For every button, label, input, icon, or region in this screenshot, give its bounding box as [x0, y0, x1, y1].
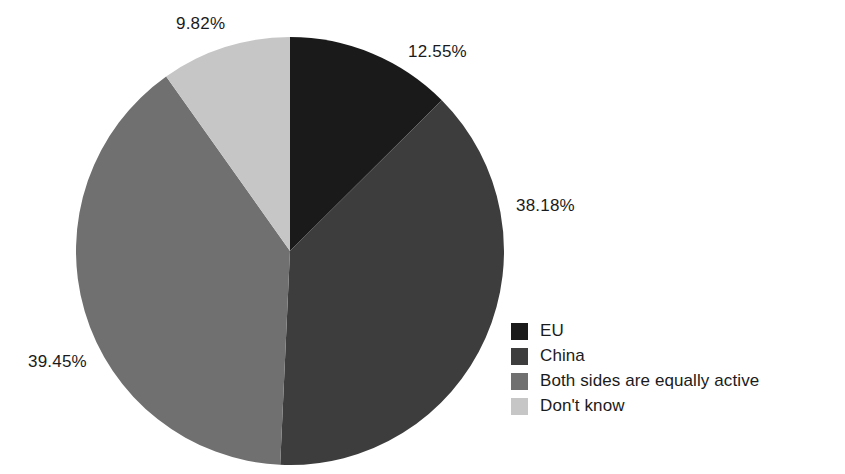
- legend-item[interactable]: EU: [511, 322, 759, 340]
- legend-swatch-icon: [511, 348, 528, 365]
- legend-swatch-icon: [511, 398, 528, 415]
- legend-item-label: Don't know: [540, 396, 625, 416]
- pie-slice-group: [76, 37, 504, 465]
- data-label-eu: 12.55%: [408, 42, 467, 62]
- chart-legend: EUChinaBoth sides are equally activeDon'…: [511, 322, 759, 415]
- legend-item[interactable]: Don't know: [511, 397, 759, 415]
- legend-item[interactable]: China: [511, 347, 759, 365]
- data-label-both-sides: 39.45%: [28, 352, 87, 372]
- legend-item-label: EU: [540, 321, 564, 341]
- data-label-dont-know: 9.82%: [176, 14, 225, 34]
- legend-item-label: Both sides are equally active: [540, 371, 759, 391]
- legend-item[interactable]: Both sides are equally active: [511, 372, 759, 390]
- data-label-china: 38.18%: [516, 196, 575, 216]
- legend-swatch-icon: [511, 323, 528, 340]
- legend-item-label: China: [540, 346, 585, 366]
- legend-swatch-icon: [511, 373, 528, 390]
- pie-chart-figure: 9.82% 12.55% 38.18% 39.45% EUChinaBoth s…: [0, 0, 845, 474]
